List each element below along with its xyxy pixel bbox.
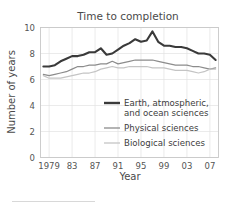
legend-label: Physical sciences: [124, 123, 199, 133]
y-tick-label: 6: [30, 75, 35, 85]
y-tick-label: 0: [30, 153, 35, 163]
x-tick-label: 83: [67, 161, 78, 171]
legend-label: and ocean sciences: [124, 108, 209, 118]
x-tick-label: 91: [113, 161, 124, 171]
x-tick-label: 07: [204, 161, 215, 171]
series-line: [43, 67, 215, 79]
x-tick-label: 99: [159, 161, 170, 171]
chart-figure: Time to completion 0246810 1979838791959…: [0, 0, 233, 207]
x-tick-label: 1979: [38, 161, 60, 171]
y-tick-label: 4: [30, 101, 35, 111]
legend-label: Earth, atmospheric,: [124, 98, 209, 108]
x-tick-label: 95: [136, 161, 147, 171]
y-axis-ticks: 0246810: [24, 23, 35, 163]
y-tick-label: 8: [30, 49, 35, 59]
legend-label: Biological sciences: [124, 138, 205, 148]
x-tick-label: 87: [90, 161, 101, 171]
chart-title: Time to completion: [76, 10, 179, 22]
data-series-group: [43, 31, 215, 78]
y-tick-label: 10: [24, 23, 35, 33]
time-to-completion-line-chart: Time to completion 0246810 1979838791959…: [0, 0, 233, 207]
y-tick-label: 2: [30, 127, 35, 137]
series-line: [43, 60, 215, 76]
y-axis-label: Number of years: [6, 50, 17, 134]
x-axis-label: Year: [118, 171, 141, 182]
x-tick-label: 03: [182, 161, 193, 171]
x-axis-ticks: 197983879195990307: [38, 161, 215, 171]
